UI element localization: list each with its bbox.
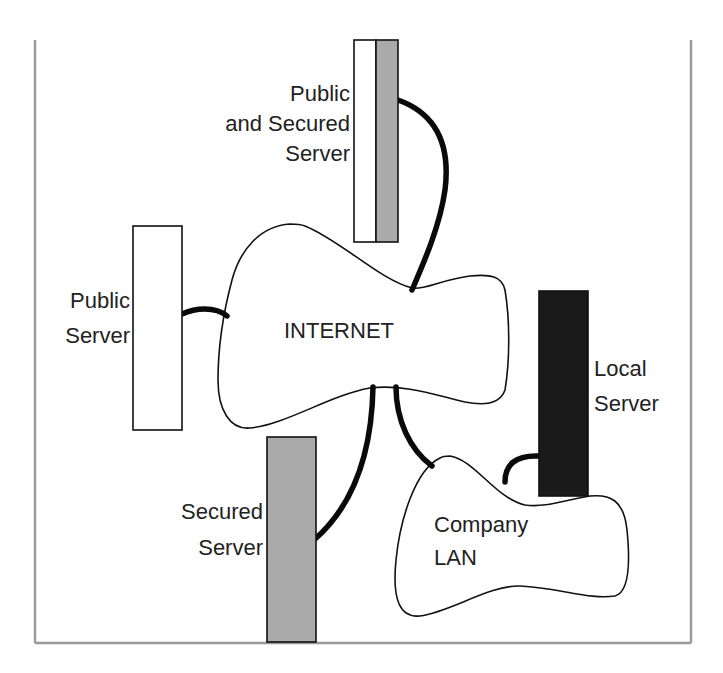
public-server-label-line2: Server bbox=[65, 323, 130, 348]
company-lan-cloud: Company LAN bbox=[395, 456, 629, 616]
internet-cloud: INTERNET bbox=[218, 224, 509, 428]
link-internet-public bbox=[182, 309, 227, 316]
public-server-label-line1: Public bbox=[70, 288, 130, 313]
link-lan-local bbox=[505, 456, 539, 482]
public-server: Public Server bbox=[65, 226, 182, 430]
secured-server-label-line2: Server bbox=[198, 535, 263, 560]
public-and-secured-server: Public and Secured Server bbox=[225, 40, 398, 242]
link-internet-lan bbox=[396, 387, 432, 466]
link-internet-secured bbox=[314, 387, 373, 540]
secured-server: Secured Server bbox=[181, 437, 316, 642]
local-server: Local Server bbox=[539, 291, 659, 496]
public-secured-label-line1: Public bbox=[290, 81, 350, 106]
local-server-label-line2: Server bbox=[594, 391, 659, 416]
company-lan-label-line1: Company bbox=[434, 512, 528, 537]
secured-server-label-line1: Secured bbox=[181, 499, 263, 524]
public-half bbox=[354, 40, 376, 242]
company-lan-label-line2: LAN bbox=[434, 545, 477, 570]
link-internet-public-secured bbox=[398, 100, 446, 290]
public-secured-label-line2: and Secured bbox=[225, 111, 350, 136]
internet-label: INTERNET bbox=[284, 318, 394, 343]
network-diagram: INTERNET Company LAN Public and Secured … bbox=[0, 0, 723, 673]
local-server-label-line1: Local bbox=[594, 356, 647, 381]
public-secured-label-line3: Server bbox=[285, 141, 350, 166]
secured-half bbox=[376, 40, 398, 242]
